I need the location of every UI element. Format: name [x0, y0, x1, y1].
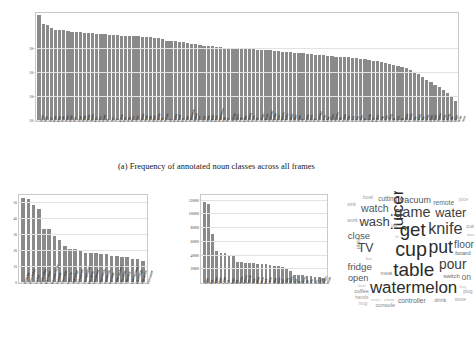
bar — [252, 49, 255, 121]
y-axis-tick-label: 120000 — [189, 199, 199, 203]
bar — [289, 52, 292, 121]
y-axis-tick-label: 10³ — [29, 71, 34, 75]
y-axis-tick-label: 50 — [14, 201, 17, 205]
gridline — [19, 266, 147, 267]
wordcloud-word: tap — [391, 224, 397, 228]
wordcloud-word: cup — [395, 240, 427, 258]
bar — [227, 48, 230, 121]
bar — [207, 204, 210, 283]
bar — [145, 37, 148, 121]
wordcloud-word: plate — [356, 238, 361, 250]
bar — [207, 46, 210, 121]
y-axis-tick-label: 30 — [14, 233, 17, 237]
bar — [231, 48, 234, 121]
bar — [235, 48, 238, 121]
gridline — [201, 255, 327, 256]
wordcloud-word: knife — [428, 221, 462, 236]
panel-b-task-frequency: 01020304050make teawash dishescut fruitm… — [0, 185, 155, 351]
caption-a: (a) Frequency of annotated noun classes … — [118, 162, 315, 171]
panel-d-action-wordle: cuptablegetputwatermelonjuicerknifegamep… — [345, 185, 476, 351]
y-axis-tick-label: 80000 — [191, 226, 199, 230]
wordcloud-word: pour — [439, 259, 467, 272]
bar — [165, 41, 168, 121]
bar — [169, 41, 172, 121]
wordcloud-word: water — [435, 208, 466, 220]
wordcloud-word: fridge — [347, 262, 372, 271]
bar — [306, 54, 309, 121]
bar — [182, 42, 185, 121]
y-axis-tick-label: 20000 — [191, 267, 199, 271]
bar — [50, 28, 53, 121]
wordcloud-word: juice — [459, 198, 469, 202]
gridline — [36, 48, 458, 49]
bar — [211, 46, 214, 121]
bar — [91, 33, 94, 121]
bar — [178, 42, 181, 121]
bar — [79, 32, 82, 121]
wordcloud-word: lid — [395, 235, 399, 239]
wordcloud-word: bag — [459, 285, 466, 289]
bar — [128, 36, 131, 121]
panel-c-verb-frequency: 20000400006000080000100000120000takeputw… — [160, 185, 335, 351]
bar — [202, 46, 205, 122]
bar — [347, 57, 350, 121]
bar — [198, 45, 201, 121]
wordcloud-word: clean — [384, 298, 394, 302]
wordcloud-word: make — [371, 298, 381, 302]
wordcloud-word: watermelon — [370, 280, 457, 296]
wordcloud-word: on — [462, 274, 471, 282]
gridline — [201, 227, 327, 228]
bar — [372, 61, 375, 121]
bar — [376, 61, 379, 121]
chart-a-plot — [36, 13, 458, 121]
wordcloud-word: floor — [454, 240, 474, 249]
y-axis-tick-label: 100000 — [189, 212, 199, 216]
bar — [62, 30, 65, 121]
wordcloud-word: bowl — [363, 196, 373, 200]
bar — [186, 43, 189, 121]
bar — [244, 49, 247, 121]
chart-c-plot — [201, 195, 327, 283]
wordcloud-word: drink — [434, 298, 446, 303]
wordcloud-word: mug — [359, 302, 368, 306]
gridline — [19, 202, 147, 203]
wordcloud-word: open — [348, 274, 368, 282]
bar — [27, 199, 31, 283]
bar — [293, 53, 296, 121]
bar — [240, 49, 243, 121]
bar — [70, 32, 73, 121]
wordcloud-word: box — [467, 233, 474, 237]
bar — [37, 15, 40, 121]
bar — [355, 58, 358, 121]
gridline — [19, 218, 147, 219]
bar — [141, 37, 144, 121]
wordcloud-word: put — [428, 239, 452, 255]
bar — [132, 36, 135, 121]
wordcloud-word: cutting — [378, 196, 397, 202]
wordcloud-word: bin — [366, 257, 372, 261]
bar — [161, 39, 164, 121]
wordcloud-word: wash — [359, 216, 389, 228]
bar — [392, 65, 395, 122]
wordcloud-word: board — [455, 251, 470, 257]
wordcloud-word: switch — [443, 274, 460, 280]
bar — [66, 31, 69, 121]
bar — [248, 49, 251, 121]
bar — [301, 53, 304, 121]
bar — [21, 198, 25, 283]
x-axis-tick-label: insert — [326, 277, 332, 285]
bar — [256, 50, 259, 121]
y-axis-tick-label: 10⁴ — [29, 47, 34, 51]
figure-page: 10¹10²10³10⁴handtablecupbowlplateknifewa… — [0, 0, 476, 351]
bar — [363, 59, 366, 121]
y-axis-tick-label: 10 — [14, 265, 17, 269]
y-axis-tick-label: 60000 — [191, 240, 199, 244]
y-axis-tick-label: 0 — [15, 281, 17, 285]
bar — [260, 50, 263, 121]
wordcloud-word: work — [347, 218, 358, 223]
bar — [153, 38, 156, 121]
wordcloud-word: watch — [361, 204, 389, 214]
chart-b-frame: 01020304050make teawash dishescut fruitm… — [18, 194, 148, 284]
bar — [359, 59, 362, 121]
wordcloud-word: door — [358, 284, 366, 288]
